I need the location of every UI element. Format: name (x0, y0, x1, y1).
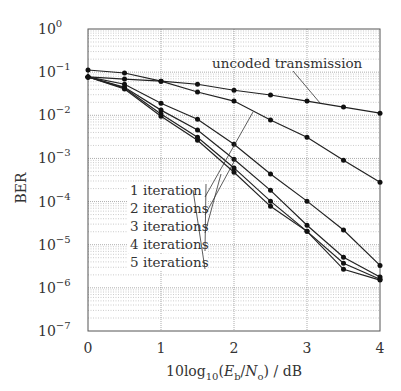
y-tick-label: 10−4 (38, 191, 71, 210)
annotation-iteration: 5 iterations (130, 254, 209, 270)
y-tick-label: 10−5 (38, 234, 71, 253)
annotation-uncoded: uncoded transmission (212, 55, 363, 71)
data-point (305, 223, 310, 228)
leader-line (205, 158, 236, 215)
y-tick-label: 100 (38, 18, 62, 37)
data-point (195, 89, 200, 94)
data-point (305, 135, 310, 140)
x-tick-label: 3 (303, 340, 312, 356)
ber-chart: 0123410010−110−210−310−410−510−610−7BER1… (0, 0, 401, 391)
data-point (378, 111, 383, 116)
x-axis-label: 10log10(Eb/No) / dB (166, 363, 302, 382)
y-tick-label: 10−6 (38, 277, 71, 296)
data-point (341, 158, 346, 163)
data-point (341, 105, 346, 110)
data-point (195, 117, 200, 122)
data-point (341, 261, 346, 266)
y-tick-label: 10−3 (38, 147, 71, 166)
data-point (195, 82, 200, 87)
data-point (232, 88, 237, 93)
data-point (122, 86, 127, 91)
leader-line (293, 71, 320, 103)
data-point (305, 99, 310, 104)
data-point (305, 199, 310, 204)
y-axis-label: BER (13, 172, 29, 204)
data-point (122, 71, 127, 76)
y-tick-label: 10−7 (38, 320, 71, 339)
x-tick-label: 2 (230, 340, 239, 356)
data-point (268, 93, 273, 98)
data-point (195, 138, 200, 143)
x-tick-label: 4 (376, 340, 385, 356)
x-tick-label: 0 (84, 340, 93, 356)
data-point (268, 188, 273, 193)
data-point (232, 99, 237, 104)
annotation-iteration: 3 iterations (130, 218, 209, 234)
x-tick-label: 1 (157, 340, 166, 356)
data-point (378, 278, 383, 283)
data-point (341, 255, 346, 260)
data-point (378, 263, 383, 268)
data-point (341, 228, 346, 233)
data-point (268, 171, 273, 176)
data-point (268, 118, 273, 123)
data-point (378, 180, 383, 185)
data-point (159, 101, 164, 106)
annotation-iteration: 4 iterations (130, 236, 209, 252)
data-point (195, 127, 200, 132)
data-point (86, 74, 91, 79)
data-point (232, 165, 237, 170)
data-point (86, 67, 91, 72)
y-tick-label: 10−1 (38, 61, 71, 80)
data-point (122, 77, 127, 82)
data-point (305, 229, 310, 234)
data-point (268, 199, 273, 204)
data-point (159, 79, 164, 84)
data-point (268, 204, 273, 209)
data-point (341, 267, 346, 272)
annotation-iteration: 1 iteration (130, 182, 202, 198)
y-tick-label: 10−2 (38, 104, 71, 123)
data-point (159, 114, 164, 119)
data-point (232, 170, 237, 175)
